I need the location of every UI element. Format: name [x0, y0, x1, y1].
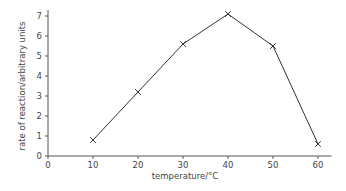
data-point-x-marker — [315, 141, 321, 147]
y-tick-label: 4 — [37, 71, 42, 81]
x-axis-label: temperature/°C — [152, 171, 219, 181]
x-tick-label: 30 — [178, 160, 189, 170]
y-axis-ticks: 01234567 — [37, 11, 48, 161]
x-tick-label: 60 — [313, 160, 324, 170]
x-tick-label: 50 — [268, 160, 279, 170]
data-series — [90, 11, 321, 147]
data-point-x-marker — [90, 137, 96, 143]
y-tick-label: 6 — [37, 31, 42, 41]
axes — [48, 10, 332, 156]
x-tick-label: 40 — [223, 160, 234, 170]
y-axis-label: rate of reaction/arbitrary units — [17, 21, 27, 151]
line-chart: 0102030405060 01234567 temperature/°C ra… — [0, 0, 346, 191]
x-tick-label: 20 — [133, 160, 144, 170]
y-tick-label: 0 — [37, 151, 42, 161]
data-point-x-marker — [225, 11, 231, 17]
x-axis-ticks: 0102030405060 — [45, 156, 323, 170]
data-point-x-marker — [135, 89, 141, 95]
data-point-x-marker — [270, 43, 276, 49]
x-tick-label: 10 — [88, 160, 99, 170]
y-tick-label: 5 — [37, 51, 42, 61]
y-tick-label: 7 — [37, 11, 42, 21]
y-tick-label: 3 — [37, 91, 42, 101]
y-tick-label: 2 — [37, 111, 42, 121]
data-point-x-marker — [180, 41, 186, 47]
y-tick-label: 1 — [37, 131, 42, 141]
x-tick-label: 0 — [45, 160, 50, 170]
series-line — [93, 14, 318, 144]
